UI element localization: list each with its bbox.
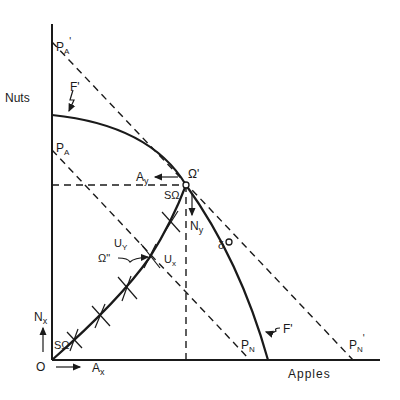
s-omega-top-label: SΩ — [164, 189, 180, 201]
x-axis-label: Apples — [288, 367, 331, 381]
frontier-label-top: F' — [70, 80, 80, 94]
contract-curve — [52, 185, 186, 360]
ay-label: Ay — [136, 170, 149, 186]
delta-point — [226, 239, 232, 245]
frontier-label-bottom: F' — [283, 322, 293, 336]
pn-prime-label: PN' — [349, 333, 365, 354]
delta-label: δ — [218, 239, 224, 251]
edgeworth-box-diagram: Nuts Apples O F' F' PA' PA PN PN' Ω' Ω" … — [0, 0, 400, 400]
omega-double-prime-label: Ω" — [98, 252, 110, 264]
ux-label: Ux — [164, 253, 176, 268]
y-axis-label: Nuts — [5, 91, 30, 105]
pa-label: PA — [56, 141, 70, 157]
ny-label: Ny — [190, 219, 204, 235]
nx-label: Nx — [34, 310, 48, 326]
omega-double-prime-leader — [118, 257, 148, 262]
origin-label: O — [36, 360, 45, 374]
uy-label: UY — [114, 237, 128, 252]
pn-label: PN — [241, 338, 255, 354]
f-prime-bottom-leader — [266, 328, 280, 333]
s-omega-bottom-label: SΩ — [54, 339, 70, 351]
omega-prime-point — [183, 182, 189, 188]
ax-label: Ax — [92, 361, 105, 377]
omega-prime-label: Ω' — [188, 167, 199, 181]
pa-prime-label: PA' — [56, 36, 71, 56]
production-frontier-curve — [52, 115, 268, 360]
